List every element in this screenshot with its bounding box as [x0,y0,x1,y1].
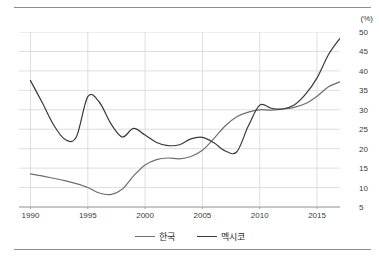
legend-label-korea: 한국 [159,230,175,243]
x-tick-1995: 1995 [79,211,97,220]
legend-swatch-korea [135,236,155,237]
legend-item-korea[interactable]: 한국 [135,230,175,243]
plot-area [19,32,340,207]
y-tick-50: 50 [359,28,373,37]
legend-label-mexico: 멕시코 [221,230,245,243]
y-tick-45: 45 [359,47,373,56]
legend-item-mexico[interactable]: 멕시코 [197,230,245,243]
y-tick-40: 40 [359,66,373,75]
y-tick-35: 35 [359,86,373,95]
y-tick-30: 30 [359,105,373,114]
y-tick-20: 20 [359,144,373,153]
y-axis-unit-label: (%) [361,14,373,23]
legend-swatch-mexico [197,236,217,237]
y-tick-25: 25 [359,125,373,134]
x-tick-1990: 1990 [22,211,40,220]
y-tick-5: 5 [359,203,373,212]
series-line-korea [30,82,340,195]
top-divider-rule [14,7,371,8]
y-tick-15: 15 [359,164,373,173]
chart-legend: 한국멕시코 [0,230,379,243]
x-tick-2005: 2005 [194,211,212,220]
x-tick-2000: 2000 [136,211,154,220]
series-line-mexico [30,38,340,154]
chart-figure: (%) 5101520253035404550 1990199520002005… [0,0,379,256]
bottom-divider-rule [14,249,371,250]
x-tick-2010: 2010 [251,211,269,220]
x-tick-2015: 2015 [308,211,326,220]
chart-canvas [19,32,340,209]
y-tick-10: 10 [359,183,373,192]
